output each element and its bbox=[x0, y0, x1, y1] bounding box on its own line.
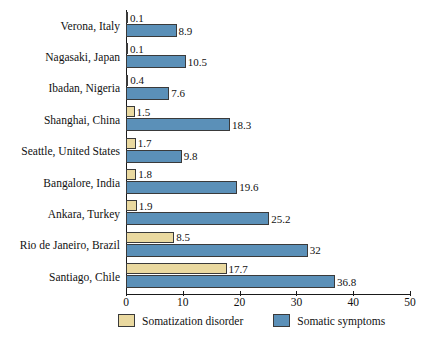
bar-somatic-symptoms: 32 bbox=[126, 244, 308, 257]
plot-area: Verona, Italy0.18.9Nagasaki, Japan0.110.… bbox=[126, 10, 410, 293]
x-tick-label: 40 bbox=[347, 296, 359, 308]
category-label: Rio de Janeiro, Brazil bbox=[20, 239, 120, 251]
category-label: Santiago, Chile bbox=[49, 271, 120, 283]
legend-item-somatization-disorder: Somatization disorder bbox=[118, 314, 243, 327]
category-label: Ankara, Turkey bbox=[48, 208, 120, 220]
bar-row: Santiago, Chile17.736.8 bbox=[126, 261, 410, 292]
bar-somatization-disorder: 1.7 bbox=[126, 138, 136, 149]
bar-value-label: 8.9 bbox=[179, 25, 193, 37]
bar-row: Seattle, United States1.79.8 bbox=[126, 136, 410, 167]
legend-label-somatic-symptoms: Somatic symptoms bbox=[297, 315, 385, 327]
x-axis-line bbox=[126, 294, 411, 295]
bar-value-label: 10.5 bbox=[188, 56, 207, 68]
bar-somatization-disorder: 0.1 bbox=[126, 12, 128, 23]
bar-row: Shanghai, China1.518.3 bbox=[126, 104, 410, 135]
bar-somatic-symptoms: 10.5 bbox=[126, 55, 186, 68]
category-label: Seattle, United States bbox=[21, 145, 120, 157]
bar-value-label: 1.8 bbox=[138, 168, 152, 180]
x-axis-ticks: 01020304050 bbox=[126, 296, 411, 314]
bar-row: Ibadan, Nigeria0.47.6 bbox=[126, 73, 410, 104]
bar-somatic-symptoms: 7.6 bbox=[126, 87, 169, 100]
category-label: Verona, Italy bbox=[61, 20, 120, 32]
category-label: Shanghai, China bbox=[44, 114, 120, 126]
bar-somatization-disorder: 17.7 bbox=[126, 263, 227, 274]
bar-value-label: 9.8 bbox=[184, 150, 198, 162]
category-label: Bangalore, India bbox=[43, 177, 120, 189]
bar-value-label: 0.1 bbox=[130, 12, 144, 24]
x-tick-label: 0 bbox=[123, 296, 129, 308]
bar-value-label: 7.6 bbox=[171, 87, 185, 99]
bar-rows: Verona, Italy0.18.9Nagasaki, Japan0.110.… bbox=[126, 10, 410, 293]
x-tick-label: 50 bbox=[404, 296, 416, 308]
chart-container: Verona, Italy0.18.9Nagasaki, Japan0.110.… bbox=[0, 0, 437, 342]
category-label: Ibadan, Nigeria bbox=[48, 82, 120, 94]
bar-row: Rio de Janeiro, Brazil8.532 bbox=[126, 230, 410, 261]
bar-row: Nagasaki, Japan0.110.5 bbox=[126, 41, 410, 72]
bar-somatic-symptoms: 25.2 bbox=[126, 212, 269, 225]
bar-row: Bangalore, India1.819.6 bbox=[126, 167, 410, 198]
bar-value-label: 32 bbox=[310, 244, 321, 256]
bar-row: Ankara, Turkey1.925.2 bbox=[126, 198, 410, 229]
x-tick-label: 10 bbox=[177, 296, 189, 308]
bar-somatization-disorder: 0.4 bbox=[126, 75, 128, 86]
bar-value-label: 19.6 bbox=[239, 181, 258, 193]
bar-somatic-symptoms: 19.6 bbox=[126, 181, 237, 194]
bar-somatization-disorder: 1.9 bbox=[126, 200, 137, 211]
bar-somatization-disorder: 1.8 bbox=[126, 169, 136, 180]
bar-value-label: 36.8 bbox=[337, 276, 356, 288]
bar-value-label: 8.5 bbox=[176, 231, 190, 243]
bar-somatic-symptoms: 18.3 bbox=[126, 118, 230, 131]
bar-value-label: 1.9 bbox=[139, 200, 153, 212]
bar-somatic-symptoms: 36.8 bbox=[126, 275, 335, 288]
bar-somatization-disorder: 0.1 bbox=[126, 43, 128, 54]
category-label: Nagasaki, Japan bbox=[45, 51, 120, 63]
bar-value-label: 0.1 bbox=[130, 43, 144, 55]
bar-somatization-disorder: 8.5 bbox=[126, 232, 174, 243]
x-tick-label: 20 bbox=[234, 296, 246, 308]
legend-swatch-somatization-disorder bbox=[118, 314, 135, 327]
bar-value-label: 1.5 bbox=[137, 106, 151, 118]
bar-somatization-disorder: 1.5 bbox=[126, 106, 135, 117]
x-tick-label: 30 bbox=[291, 296, 303, 308]
bar-value-label: 0.4 bbox=[130, 74, 144, 86]
chart-legend: Somatization disorder Somatic symptoms bbox=[118, 314, 385, 327]
bar-value-label: 1.7 bbox=[138, 137, 152, 149]
bar-value-label: 18.3 bbox=[232, 119, 251, 131]
bar-value-label: 17.7 bbox=[229, 263, 248, 275]
legend-label-somatization-disorder: Somatization disorder bbox=[142, 315, 243, 327]
legend-swatch-somatic-symptoms bbox=[273, 314, 290, 327]
bar-value-label: 25.2 bbox=[271, 213, 290, 225]
bar-somatic-symptoms: 9.8 bbox=[126, 150, 182, 163]
legend-item-somatic-symptoms: Somatic symptoms bbox=[273, 314, 385, 327]
bar-row: Verona, Italy0.18.9 bbox=[126, 10, 410, 41]
bar-somatic-symptoms: 8.9 bbox=[126, 24, 177, 37]
